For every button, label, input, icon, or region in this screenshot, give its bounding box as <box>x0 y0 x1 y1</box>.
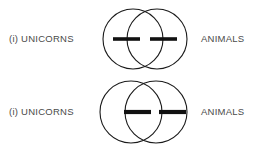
venn-diagram-row-bottom: (i) UNICORNS ANIMALS <box>0 75 278 149</box>
venn-diagram-bottom <box>97 76 197 148</box>
right-label-bottom: ANIMALS <box>201 107 271 117</box>
right-label-top: ANIMALS <box>201 34 271 44</box>
venn-diagram-top <box>95 4 199 74</box>
venn-diagram-row-top: (i) UNICORNS ANIMALS <box>0 3 278 75</box>
venn-figure-page: (i) UNICORNS ANIMALS (i) UNICORNS ANIMAL… <box>0 0 278 151</box>
left-label-bottom: (i) UNICORNS <box>9 107 93 117</box>
left-label-top: (i) UNICORNS <box>9 34 93 44</box>
